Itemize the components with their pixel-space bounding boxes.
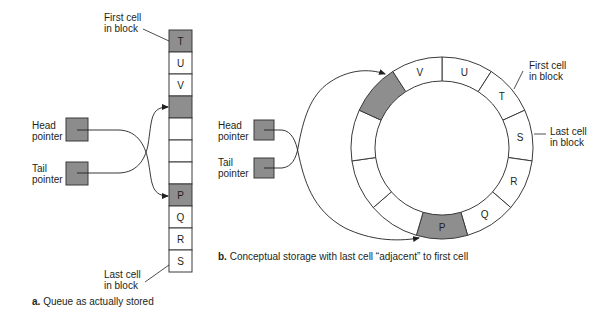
head-label-b: Head pointer xyxy=(218,120,249,142)
first-cell-leader-b xyxy=(514,71,523,89)
first-cell-label-a: First cell in block xyxy=(104,12,141,34)
first-cell-label-b: First cell in block xyxy=(529,60,566,82)
column-cell-label: Q xyxy=(177,212,185,223)
caption-b-text: Conceptual storage with last cell “adjac… xyxy=(230,251,468,262)
column-cell-label: S xyxy=(177,256,184,267)
tail-label-b-line2: pointer xyxy=(218,168,249,179)
first-cell-leader-a xyxy=(143,29,169,41)
head-label-a: Head pointer xyxy=(32,120,63,142)
column-cell: U xyxy=(169,52,192,74)
column-cell-label: V xyxy=(177,80,184,91)
column-cell: V xyxy=(169,74,192,96)
head-label-b-line2: pointer xyxy=(218,131,249,142)
circular-queue-diagram: TUVPQRS UTSRQPV xyxy=(0,0,614,314)
head-label-a-line2: pointer xyxy=(32,131,63,142)
linear-storage-column: TUVPQRS xyxy=(169,30,192,272)
tail-label-b-line1: Tail xyxy=(218,157,249,168)
tail-pointer-arrow-a xyxy=(77,107,168,173)
caption-b-letter: b. xyxy=(218,251,227,262)
first-cell-label-b-line2: in block xyxy=(529,71,566,82)
column-cell: Q xyxy=(169,206,192,228)
ring-cell: P xyxy=(416,212,467,239)
last-cell-label-a-line2: in block xyxy=(104,280,141,291)
first-cell-label-b-line1: First cell xyxy=(529,60,566,71)
caption-b: b. Conceptual storage with last cell “ad… xyxy=(218,251,468,262)
ring-cell: S xyxy=(503,110,533,161)
column-cell: R xyxy=(169,228,192,250)
last-cell-label-b-line2: in block xyxy=(550,137,587,148)
last-cell-label-a: Last cell in block xyxy=(104,269,141,291)
caption-a-letter: a. xyxy=(32,296,40,307)
last-cell-label-a-line1: Last cell xyxy=(104,269,141,280)
column-cell-label: U xyxy=(177,58,184,69)
column-cell: P xyxy=(169,184,192,206)
tail-pointer-box-a xyxy=(66,162,88,185)
ring-cell-label: S xyxy=(517,132,524,143)
ring-cell-label: P xyxy=(439,222,446,233)
column-cell-label: T xyxy=(177,36,183,47)
tail-label-a-line2: pointer xyxy=(32,174,63,185)
ring-cell-label: U xyxy=(461,67,468,78)
tail-label-a-line1: Tail xyxy=(32,163,63,174)
column-cell-label: P xyxy=(177,190,184,201)
tail-label-b: Tail pointer xyxy=(218,157,249,179)
first-cell-label-a-line2: in block xyxy=(104,23,141,34)
ring-cell-label: V xyxy=(416,67,423,78)
head-label-a-line1: Head xyxy=(32,120,63,131)
head-label-b-line1: Head xyxy=(218,120,249,131)
caption-a-text: Queue as actually stored xyxy=(43,296,154,307)
tail-label-a: Tail pointer xyxy=(32,163,63,185)
column-cell xyxy=(169,96,192,118)
last-cell-label-b: Last cell in block xyxy=(550,126,587,148)
ring-cell-label: Q xyxy=(481,209,489,220)
head-pointer-arrow-a xyxy=(77,130,168,196)
ring-cell-label: R xyxy=(510,176,517,187)
last-cell-leader-a xyxy=(145,265,169,282)
head-pointer-box-a xyxy=(66,118,88,141)
column-cell xyxy=(169,118,192,140)
first-cell-label-a-line1: First cell xyxy=(104,12,141,23)
last-cell-label-b-line1: Last cell xyxy=(550,126,587,137)
column-cell xyxy=(169,162,192,184)
column-cell: S xyxy=(169,250,192,272)
column-cell: T xyxy=(169,30,192,52)
column-cell-label: R xyxy=(177,234,184,245)
ring-cell-label: T xyxy=(499,91,505,102)
caption-a: a. Queue as actually stored xyxy=(32,296,154,307)
circular-ring: UTSRQPV xyxy=(351,57,533,239)
column-cell xyxy=(169,140,192,162)
